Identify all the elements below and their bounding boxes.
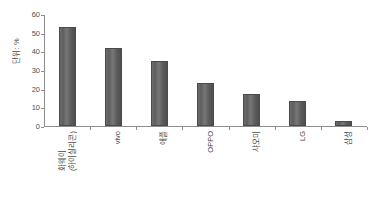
y-axis-tick-mark xyxy=(41,15,44,16)
x-axis-tick-label-line: OPPO xyxy=(206,131,215,153)
x-axis-tick-label: 애플 xyxy=(159,131,168,145)
y-axis-tick-mark xyxy=(41,52,44,53)
y-axis-tick-label: 20 xyxy=(18,86,40,94)
x-axis-tick-label: LG xyxy=(298,131,307,141)
bar xyxy=(151,61,168,126)
x-axis-tick-label: 샤오미 xyxy=(252,131,261,152)
y-axis-tick-mark xyxy=(41,34,44,35)
x-axis-tick-labels: 화웨이(하이실리콘)vivo애플OPPO샤오미LG삼성 xyxy=(44,128,367,218)
y-axis-tick-mark xyxy=(41,71,44,72)
plot-area xyxy=(44,15,367,127)
x-axis-line xyxy=(44,126,367,127)
x-axis-tick-label: vivo xyxy=(113,131,122,144)
y-axis-tick-label: 40 xyxy=(18,48,40,56)
x-axis-tick-label: 화웨이(하이실리콘) xyxy=(58,131,77,171)
y-axis-tick-labels: 6050403020100 xyxy=(18,11,40,129)
x-axis-label-slot: 삼성 xyxy=(334,128,354,214)
y-axis-tick-label: 60 xyxy=(18,11,40,19)
bar xyxy=(105,48,122,126)
x-axis-label-slot: OPPO xyxy=(196,128,216,214)
x-axis-label-slot: 샤오미 xyxy=(242,128,262,214)
x-axis-tick-label-line: vivo xyxy=(113,131,122,144)
y-axis-tick-label: 0 xyxy=(18,123,40,131)
x-axis-tick-label-line: 샤오미 xyxy=(252,131,261,152)
x-axis-tick-label-line: 삼성 xyxy=(344,131,353,145)
bar xyxy=(59,27,76,126)
bar xyxy=(289,101,306,126)
bar xyxy=(335,121,352,126)
x-axis-tick-label-line: (하이실리콘) xyxy=(67,131,77,171)
x-axis-tick-label-line: LG xyxy=(298,131,307,141)
x-axis-tick-label: OPPO xyxy=(206,131,215,153)
x-axis-label-slot: 애플 xyxy=(149,128,169,214)
y-axis-tick-label: 50 xyxy=(18,30,40,38)
x-axis-tick-mark xyxy=(367,127,368,130)
y-axis-tick-mark xyxy=(41,108,44,109)
y-axis-tick-mark xyxy=(41,90,44,91)
y-axis-line xyxy=(44,15,45,127)
y-axis-tick-label: 10 xyxy=(18,104,40,112)
x-axis-label-slot: vivo xyxy=(103,128,123,214)
x-axis-label-slot: 화웨이(하이실리콘) xyxy=(57,128,77,214)
x-axis-tick-label: 삼성 xyxy=(344,131,353,145)
bar xyxy=(197,83,214,126)
x-axis-tick-label-line: 애플 xyxy=(159,131,168,145)
x-axis-label-slot: LG xyxy=(288,128,308,214)
x-axis-tick-label-line: 화웨이 xyxy=(58,131,68,171)
y-axis-tick-label: 30 xyxy=(18,67,40,75)
bar xyxy=(243,94,260,126)
bar-chart: 단위: % 6050403020100 화웨이(하이실리콘)vivo애플OPPO… xyxy=(0,0,383,218)
